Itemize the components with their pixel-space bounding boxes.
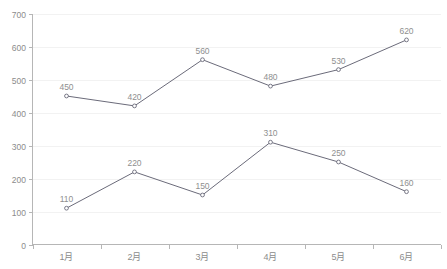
data-point-marker[interactable] xyxy=(337,68,341,72)
y-tick-label: 600 xyxy=(12,43,26,53)
x-category-label: 6月 xyxy=(399,252,413,262)
data-point-marker[interactable] xyxy=(133,104,137,108)
gridlines xyxy=(33,15,441,213)
data-point-label: 620 xyxy=(399,26,413,36)
y-tick-label: 0 xyxy=(21,241,26,251)
x-category-label: 4月 xyxy=(263,252,277,262)
series-line-series-upper xyxy=(67,40,407,106)
line-chart: 0100200300400500600700 1月2月3月4月5月6月 4504… xyxy=(0,0,447,269)
y-tick-label: 100 xyxy=(12,208,26,218)
data-point-marker[interactable] xyxy=(405,38,409,42)
data-point-label: 450 xyxy=(59,82,73,92)
data-point-label: 560 xyxy=(195,46,209,56)
point-label-layer: 450420560480530620110220150310250160 xyxy=(59,26,413,204)
data-point-marker[interactable] xyxy=(65,94,69,98)
data-point-label: 530 xyxy=(331,56,345,66)
y-tick-label: 700 xyxy=(12,10,26,20)
y-tick-label: 400 xyxy=(12,109,26,119)
series-line-series-lower xyxy=(67,142,407,208)
data-point-label: 150 xyxy=(195,181,209,191)
data-point-label: 160 xyxy=(399,178,413,188)
data-point-marker[interactable] xyxy=(133,170,137,174)
x-category-label: 5月 xyxy=(331,252,345,262)
y-axis: 0100200300400500600700 xyxy=(12,10,33,251)
x-axis: 1月2月3月4月5月6月 xyxy=(33,245,442,262)
data-point-marker[interactable] xyxy=(269,84,273,88)
data-point-marker[interactable] xyxy=(269,140,273,144)
series-layer xyxy=(65,38,409,210)
x-axis-category-labels: 1月2月3月4月5月6月 xyxy=(59,252,413,262)
y-axis-tick-labels: 0100200300400500600700 xyxy=(12,10,26,251)
data-point-label: 220 xyxy=(127,158,141,168)
data-point-label: 480 xyxy=(263,72,277,82)
data-point-marker[interactable] xyxy=(201,58,205,62)
x-category-label: 3月 xyxy=(195,252,209,262)
x-category-label: 2月 xyxy=(127,252,141,262)
chart-canvas: 0100200300400500600700 1月2月3月4月5月6月 4504… xyxy=(0,0,447,269)
y-tick-label: 300 xyxy=(12,142,26,152)
data-point-marker[interactable] xyxy=(405,190,409,194)
data-point-marker[interactable] xyxy=(337,160,341,164)
x-category-label: 1月 xyxy=(59,252,73,262)
data-point-label: 250 xyxy=(331,148,345,158)
y-tick-label: 500 xyxy=(12,76,26,86)
data-point-label: 310 xyxy=(263,128,277,138)
x-axis-ticks xyxy=(34,245,442,249)
y-axis-ticks xyxy=(29,15,33,246)
data-point-label: 420 xyxy=(127,92,141,102)
data-point-marker[interactable] xyxy=(201,193,205,197)
y-tick-label: 200 xyxy=(12,175,26,185)
data-point-label: 110 xyxy=(60,194,74,204)
data-point-marker[interactable] xyxy=(65,206,69,210)
